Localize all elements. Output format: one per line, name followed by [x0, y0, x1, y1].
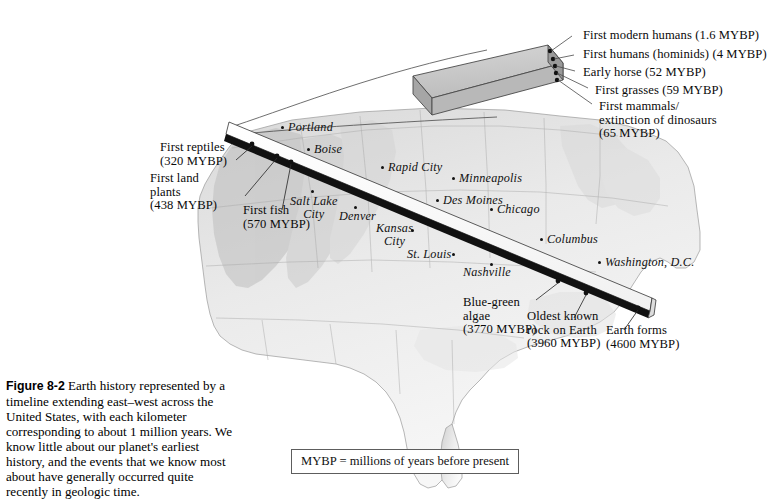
legend-key-box: MYBP = millions of years before present — [291, 449, 519, 474]
event-label-earth-forms: Earth forms (4600 MYBP) — [606, 324, 680, 351]
city-label-rapid-city: Rapid City — [388, 161, 442, 174]
event-label-first-grasses: First grasses (59 MYBP) — [595, 84, 723, 98]
city-label-boise: Boise — [314, 143, 342, 156]
event-label-oldest-known-rock: Oldest known rock on Earth (3960 MYBP) — [527, 310, 601, 351]
city-label-des-moines: Des Moines — [443, 194, 503, 207]
legend-key-text: MYBP = millions of years before present — [301, 454, 509, 468]
event-label-first-modern-humans: First modern humans (1.6 MYBP) — [583, 29, 759, 43]
city-label-columbus: Columbus — [547, 233, 598, 246]
event-label-blue-green-algae: Blue-green algae (3770 MYBP) — [463, 296, 537, 337]
city-label-salt-lake-city: Salt Lake City — [290, 195, 338, 220]
city-label-washington-dc: Washington, D.C. — [605, 256, 694, 269]
figure-caption: Figure 8-2 Earth history represented by … — [6, 378, 234, 499]
magnified-timeline-block — [413, 34, 592, 115]
event-label-first-humans: First humans (hominids) (4 MYBP) — [583, 48, 767, 62]
event-label-first-land-plants: First land plants (438 MYBP) — [150, 172, 217, 213]
city-label-minneapolis: Minneapolis — [459, 172, 522, 185]
figure-number: Figure 8-2 — [6, 379, 65, 393]
city-label-denver: Denver — [339, 210, 376, 223]
city-label-portland: Portland — [288, 121, 333, 134]
event-label-early-horse: Early horse (52 MYBP) — [583, 66, 706, 80]
event-label-first-mammals: First mammals/ extinction of dinosaurs (… — [599, 100, 717, 141]
figure-caption-text: Earth history represented by a timeline … — [6, 378, 232, 499]
city-label-chicago: Chicago — [497, 203, 540, 216]
event-label-first-reptiles: First reptiles (320 MYBP) — [160, 141, 227, 168]
city-label-kansas-city: Kansas City — [376, 222, 413, 247]
city-label-nashville: Nashville — [463, 266, 511, 279]
city-label-st-louis: St. Louis — [407, 248, 451, 261]
